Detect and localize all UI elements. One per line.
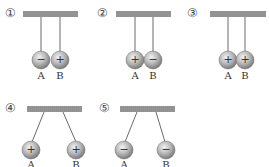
panel-2-ball-b-charge: − (148, 55, 158, 65)
panel-1-ball-a-charge: − (36, 55, 46, 65)
panel-4-ball-a-charge: + (26, 145, 36, 155)
panel-5-strings (125, 112, 165, 142)
panel-1-number: ① (5, 8, 16, 19)
panel-4-support-bar (27, 106, 82, 112)
panel-1-label-b: B (55, 71, 65, 81)
panel-1-label-a: A (36, 71, 46, 81)
panel-4-label-b: B (71, 160, 81, 167)
panel-4-label-a: A (26, 160, 36, 167)
panel-5-ball-a-charge: − (119, 145, 129, 155)
panel-4-ball-b-charge: + (71, 145, 81, 155)
panel-2-ball-a-charge: + (130, 55, 140, 65)
panel-3-label-a: A (223, 71, 233, 81)
panel-5-label-a: A (119, 160, 129, 167)
panel-3-number: ③ (187, 8, 198, 19)
panel-3-strings (228, 17, 245, 52)
panel-5-number: ⑤ (99, 103, 110, 114)
panel-2-label-a: A (130, 71, 140, 81)
panel-3-label-b: B (240, 71, 250, 81)
panel-1-support-bar (23, 11, 78, 17)
panel-2-number: ② (97, 8, 108, 19)
panel-1-ball-b-charge: + (55, 55, 65, 65)
panel-4-number: ④ (5, 103, 16, 114)
panel-1-strings (41, 17, 60, 52)
panel-5-ball-b-charge: − (161, 145, 171, 155)
panel-5-support-bar (120, 106, 175, 112)
panel-3-ball-b-charge: + (240, 55, 250, 65)
panel-4-strings (32, 112, 76, 142)
panel-3-support-bar (210, 11, 266, 17)
diagram-canvas (0, 0, 269, 167)
panel-3-ball-a-charge: + (223, 55, 233, 65)
panel-5-label-b: B (161, 160, 171, 167)
panel-2-support-bar (116, 11, 171, 17)
panel-2-strings (135, 17, 153, 52)
panel-2-label-b: B (148, 71, 158, 81)
